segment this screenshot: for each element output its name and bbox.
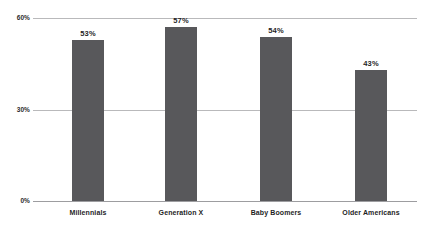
bar-layer: 53% 57% 54% 43%	[33, 18, 417, 201]
y-axis-tick-60: 60%	[2, 15, 30, 22]
bar-group-baby-boomers: 54%	[260, 18, 292, 201]
x-axis-label-generation-x: Generation X	[133, 209, 229, 217]
x-axis-category-labels: Millennials Generation X Baby Boomers Ol…	[33, 209, 417, 225]
y-axis-tick-labels: 60% 30% 0%	[0, 18, 30, 201]
bar-group-older-americans: 43%	[355, 18, 387, 201]
bar-baby-boomers[interactable]	[260, 37, 292, 201]
y-axis-tick-0: 0%	[2, 198, 30, 205]
bar-value-generation-x: 57%	[151, 17, 211, 25]
bar-generation-x[interactable]	[165, 27, 197, 201]
bar-chart: 60% 30% 0% 53% 57% 54% 43%	[0, 0, 437, 238]
x-axis-label-millennials: Millennials	[40, 209, 136, 217]
bar-millennials[interactable]	[72, 40, 104, 201]
plot-area: 53% 57% 54% 43%	[33, 18, 417, 201]
bar-value-baby-boomers: 54%	[246, 27, 306, 35]
axis-baseline	[33, 201, 417, 202]
x-axis-label-older-americans: Older Americans	[323, 209, 419, 217]
bar-group-generation-x: 57%	[165, 18, 197, 201]
bar-value-older-americans: 43%	[341, 60, 401, 68]
y-axis-tick-30: 30%	[2, 107, 30, 114]
bar-group-millennials: 53%	[72, 18, 104, 201]
bar-value-millennials: 53%	[58, 30, 118, 38]
bar-older-americans[interactable]	[355, 70, 387, 201]
x-axis-label-baby-boomers: Baby Boomers	[228, 209, 324, 217]
